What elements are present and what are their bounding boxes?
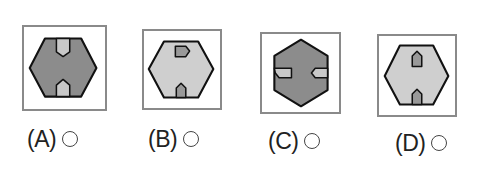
option-c-radio[interactable] [304,133,320,149]
hexagon-icon [24,27,105,109]
option-a: (A) [0,0,110,175]
option-a-label: (A) [27,126,78,153]
hexagon-icon [144,31,220,108]
option-b-radio[interactable] [183,131,199,147]
option-c-figure [260,32,341,114]
option-a-figure [22,25,107,111]
option-b: (B) [120,0,230,175]
option-d-radio[interactable] [431,135,447,151]
option-d-figure [377,34,457,117]
option-c-label: (C) [268,128,320,155]
option-d: (D) [355,0,465,175]
hexagon-icon [379,36,455,115]
option-d-label: (D) [395,130,447,157]
option-c: (C) [240,0,350,175]
hexagon-icon [262,34,339,112]
option-a-radio[interactable] [62,131,78,147]
option-b-label: (B) [148,126,199,153]
option-b-figure [142,29,222,110]
